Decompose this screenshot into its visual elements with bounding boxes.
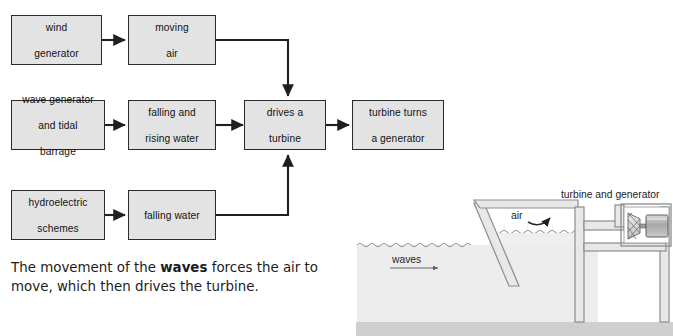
label-waves: waves <box>392 254 421 265</box>
air-duct-riser <box>615 205 624 227</box>
air-flow-arrow <box>528 218 550 225</box>
label-turbine-and-generator: turbine and generator <box>561 189 659 200</box>
chamber-ceiling <box>584 243 666 251</box>
wave-power-station-illustration <box>0 0 673 336</box>
diagram-canvas: windgenerator movingair wave generatoran… <box>0 0 673 336</box>
sea-water-upper-right <box>489 233 578 246</box>
top-deck <box>474 200 578 208</box>
label-air: air <box>511 210 522 221</box>
seabed <box>356 322 673 336</box>
drive-shaft <box>640 224 646 228</box>
chamber-left-wall <box>575 207 584 322</box>
